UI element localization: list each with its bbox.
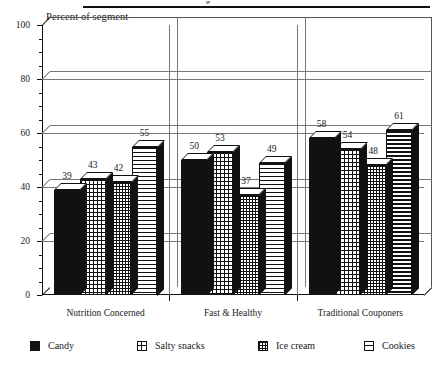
bar-side-face [106,172,113,295]
bar-value-label: 50 [189,141,199,151]
y-tick-minor [39,120,42,121]
bar-front-face [309,138,335,295]
bar-side-face [360,142,367,295]
legend-label: Ice cream [276,340,315,351]
bar-front-face [181,160,207,295]
axis-depth-bottom-right [424,287,433,296]
y-tick-minor [39,268,42,269]
bar-value-label: 49 [267,144,277,154]
legend-item-salty-snacks[interactable]: Salty snacks [137,340,205,351]
bar-candy-3[interactable]: 58 [309,138,335,295]
y-tick-minor [39,160,42,161]
y-tick-label: 0 [4,290,30,300]
bar-front-face [54,190,80,295]
bar-value-label: 42 [114,163,124,173]
y-tick-label: 20 [4,236,30,246]
bar-value-label: 48 [368,146,378,156]
y-tick-minor [39,255,42,256]
legend-swatch-icon [137,341,147,351]
bar-candy-2[interactable]: 50 [181,160,207,295]
bar-value-label: 39 [62,171,72,181]
y-tick-major [37,25,42,26]
bar-candy-1[interactable]: 39 [54,190,80,295]
group-separator-back [177,17,178,287]
y-tick-minor [39,106,42,107]
y-tick-minor [39,228,42,229]
gridline [42,79,424,80]
y-tick-minor [39,214,42,215]
y-tick-minor [39,174,42,175]
y-tick-major [37,187,42,188]
bar-side-face [259,188,266,295]
legend-label: Salty snacks [155,340,205,351]
y-tick-label: 40 [4,182,30,192]
header-text-fragment: g [200,0,216,4]
category-label: Traditional Couponers [318,308,403,318]
bar-value-label: 58 [317,119,327,129]
bar-side-face [157,140,164,296]
y-tick-minor [39,66,42,67]
bar-value-label: 53 [215,133,225,143]
gridline-back [50,71,432,72]
bar-value-label: 43 [88,160,98,170]
group-separator [297,25,298,295]
legend-item-cookies[interactable]: Cookies [364,340,415,351]
bar-value-label: 37 [241,176,251,186]
legend-label: Candy [48,340,74,351]
plot-back-right-edge [431,17,432,287]
bar-side-face [207,153,214,295]
chart-page: g Percent of segment 5542433949375350614… [0,0,436,368]
legend-item-ice-cream[interactable]: Ice cream [258,340,315,351]
y-tick-label: 80 [4,74,30,84]
group-separator-back [305,17,306,287]
bar-side-face [131,175,138,295]
bar-side-face [285,156,292,295]
y-tick-minor [39,147,42,148]
legend-swatch-icon [364,341,374,351]
chart-legend: CandySalty snacksIce creamCookies [0,340,436,362]
bar-value-label: 61 [394,111,404,121]
y-tick-minor [39,282,42,283]
x-tick [297,295,298,301]
bar-value-label: 55 [140,128,150,138]
bar-side-face [334,131,341,295]
header-rule [83,6,430,8]
group-separator [169,25,170,295]
y-tick-label: 100 [4,20,30,30]
legend-label: Cookies [382,340,415,351]
plot-area: 554243394937535061485458 [42,25,424,295]
legend-item-candy[interactable]: Candy [30,340,74,351]
y-tick-minor [39,93,42,94]
y-tick-major [37,241,42,242]
y-tick-minor [39,39,42,40]
y-tick-major [37,79,42,80]
bar-side-face [412,123,419,295]
gridline [42,133,424,134]
y-tick-label: 60 [4,128,30,138]
legend-swatch-icon [258,341,268,351]
y-tick-major [37,133,42,134]
bar-value-label: 54 [343,130,353,140]
x-tick [169,295,170,301]
y-tick-minor [39,201,42,202]
legend-swatch-icon [30,341,40,351]
category-label: Nutrition Concerned [66,308,144,318]
y-tick-major [37,295,42,296]
category-label: Fast & Healthy [204,308,262,318]
y-tick-minor [39,52,42,53]
bar-side-face [80,183,87,295]
gridline-back [50,125,432,126]
bar-side-face [386,158,393,295]
bar-side-face [233,145,240,295]
